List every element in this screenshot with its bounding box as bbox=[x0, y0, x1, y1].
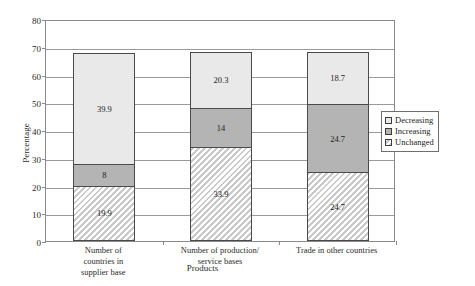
y-axis-title: Percentage bbox=[21, 123, 31, 162]
y-tick-label: 50 bbox=[32, 100, 46, 109]
bar-segment-value: 33.9 bbox=[214, 189, 229, 199]
bar-segment-value: 14 bbox=[217, 123, 226, 133]
bar-segment-value: 24.7 bbox=[330, 134, 345, 144]
bar-segment-increasing: 24.7 bbox=[307, 104, 369, 173]
bar-segment-increasing: 14 bbox=[190, 108, 252, 147]
bar-segment-value: 24.7 bbox=[330, 202, 345, 212]
x-axis-title: Products bbox=[0, 263, 475, 273]
bar-segment-unchanged: 19.9 bbox=[73, 186, 135, 241]
y-tick-label: 70 bbox=[32, 44, 46, 53]
legend-swatch-icon bbox=[385, 117, 392, 124]
bar-segment-value: 19.9 bbox=[97, 208, 112, 218]
y-tick-label: 30 bbox=[32, 155, 46, 164]
legend-item-label: Decreasing bbox=[395, 115, 433, 126]
bar-segment-decreasing: 39.9 bbox=[73, 53, 135, 164]
legend-item-unchanged[interactable]: Unchanged bbox=[385, 137, 434, 148]
gridline bbox=[46, 49, 394, 50]
bar-segment-increasing: 8 bbox=[73, 164, 135, 186]
bar-segment-value: 18.7 bbox=[330, 73, 345, 83]
y-tick-label: 20 bbox=[32, 183, 46, 192]
bar-segment-unchanged: 24.7 bbox=[307, 172, 369, 241]
legend-item-label: Increasing bbox=[395, 126, 430, 137]
stacked-bar-chart: Percentage 01020304050607080 19.9839.933… bbox=[0, 0, 475, 286]
legend-item-decreasing[interactable]: Decreasing bbox=[385, 115, 434, 126]
x-axis-title-text: Products bbox=[187, 263, 219, 273]
bar-segment-decreasing: 20.3 bbox=[190, 52, 252, 108]
stacked-bar: 19.9839.9 bbox=[73, 53, 135, 241]
stacked-bar: 33.91420.3 bbox=[190, 52, 252, 241]
y-tick-label: 40 bbox=[32, 128, 46, 137]
x-category-label-line: Trade in other countries bbox=[267, 245, 407, 256]
y-tick-label: 10 bbox=[32, 211, 46, 220]
legend-item-increasing[interactable]: Increasing bbox=[385, 126, 434, 137]
stacked-bar: 24.724.718.7 bbox=[307, 52, 369, 241]
bar-segment-value: 20.3 bbox=[214, 75, 229, 85]
y-tick-label: 80 bbox=[32, 17, 46, 26]
bar-segment-decreasing: 18.7 bbox=[307, 52, 369, 104]
bar-segment-value: 8 bbox=[102, 170, 106, 180]
legend-swatch-icon bbox=[385, 128, 392, 135]
x-category-label: Trade in other countries bbox=[267, 245, 407, 256]
plot-area: 01020304050607080 19.9839.933.91420.324.… bbox=[45, 20, 395, 242]
chart-legend: DecreasingIncreasingUnchanged bbox=[381, 111, 439, 152]
bar-segment-value: 39.9 bbox=[97, 104, 112, 114]
y-tick-label: 60 bbox=[32, 72, 46, 81]
bar-segment-unchanged: 33.9 bbox=[190, 147, 252, 241]
legend-swatch-icon bbox=[385, 139, 392, 146]
legend-item-label: Unchanged bbox=[395, 137, 434, 148]
